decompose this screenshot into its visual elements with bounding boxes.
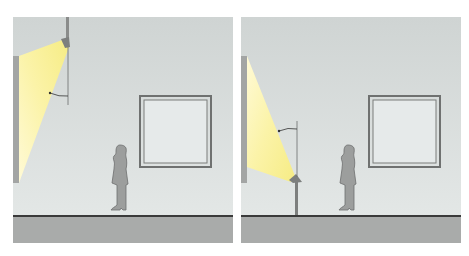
floor	[13, 216, 233, 243]
side-wall	[13, 56, 19, 183]
diagram-panel-ceiling-fixture	[13, 17, 233, 243]
floor	[241, 216, 461, 243]
picture-inner	[373, 100, 436, 163]
side-wall	[241, 56, 247, 183]
floor-line	[13, 215, 233, 217]
picture-inner	[144, 100, 207, 163]
diagram-panel-floor-fixture	[241, 17, 461, 243]
floor-line	[241, 215, 461, 217]
floor-post	[295, 180, 298, 216]
